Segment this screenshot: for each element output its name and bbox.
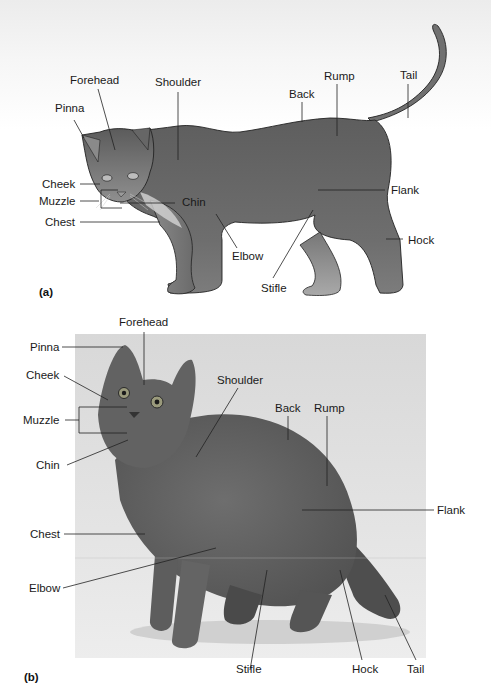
label-tail-b: Tail	[407, 663, 424, 676]
label-chest-b: Chest	[30, 528, 60, 541]
label-pinna-a: Pinna	[55, 102, 84, 115]
label-muzzle-b: Muzzle	[23, 414, 59, 427]
label-rump-b: Rump	[314, 402, 345, 415]
hind-leg-near	[300, 232, 341, 295]
label-chest-a: Chest	[45, 216, 75, 229]
label-forehead-b: Forehead	[119, 316, 168, 329]
label-hock-b: Hock	[352, 663, 378, 676]
label-forehead-a: Forehead	[70, 74, 119, 87]
label-rump-a: Rump	[324, 70, 355, 83]
label-stifle-a: Stifle	[261, 282, 287, 295]
label-shoulder-a: Shoulder	[155, 76, 201, 89]
label-flank-a: Flank	[391, 184, 419, 197]
panel-a-illustration: Forehead Shoulder Pinna Back Rump Tail C…	[0, 0, 491, 305]
label-chin-b: Chin	[36, 459, 60, 472]
label-pinna-b: Pinna	[30, 341, 59, 354]
panel-tag-b: (b)	[24, 671, 39, 683]
label-back-b: Back	[275, 402, 301, 415]
label-back-a: Back	[289, 88, 315, 101]
label-cheek-a: Cheek	[42, 178, 75, 191]
photo-pupil-left	[122, 391, 126, 395]
label-tail-a: Tail	[400, 69, 417, 82]
cat-photo	[0, 305, 491, 692]
panel-b-photo: Forehead Pinna Cheek Shoulder Back Rump …	[0, 305, 491, 692]
label-chin-a: Chin	[182, 196, 206, 209]
label-elbow-a: Elbow	[232, 250, 263, 263]
label-shoulder-b: Shoulder	[217, 374, 263, 387]
label-elbow-b: Elbow	[29, 582, 60, 595]
label-muzzle-a: Muzzle	[39, 195, 75, 208]
label-flank-b: Flank	[437, 504, 465, 517]
eye-right	[128, 173, 139, 180]
panel-tag-a: (a)	[39, 286, 53, 298]
label-cheek-b: Cheek	[26, 369, 59, 382]
eye-left	[102, 175, 112, 181]
label-hock-a: Hock	[408, 234, 434, 247]
label-stifle-b: Stifle	[236, 663, 262, 676]
photo-pupil-right	[155, 400, 160, 405]
